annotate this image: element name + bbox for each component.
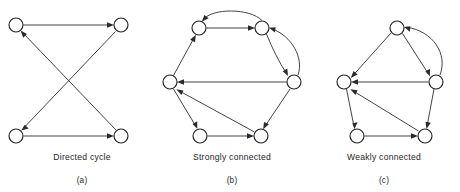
edge-b-topright-topleft-curved <box>202 11 262 22</box>
caption-panel-b: Strongly connected <box>193 152 271 162</box>
node-c-left <box>337 75 351 89</box>
edge-c-right-bottomright <box>426 89 435 129</box>
edge-c-bottomright-left <box>350 89 418 131</box>
edge-b-right-bottomright <box>263 89 290 129</box>
panel-letter-a: (a) <box>77 176 88 185</box>
panel-a-graph <box>9 18 128 143</box>
node-c-bottom-left <box>350 129 364 143</box>
edge-a-topleft-topright <box>24 22 115 27</box>
edge-c-bottomleft-bottomright <box>365 133 419 138</box>
panel-c-graph <box>337 21 443 143</box>
node-b-bottom-left <box>193 129 207 143</box>
edge-c-right-top-curved <box>404 26 442 75</box>
node-c-right <box>429 75 443 89</box>
caption-panel-a: Directed cycle <box>53 152 110 162</box>
node-c-bottom-right <box>418 129 432 143</box>
edge-b-right-left <box>177 79 287 84</box>
node-a-bottom-right <box>114 129 128 143</box>
node-b-top-left <box>192 21 206 35</box>
panel-b-graph <box>163 11 301 143</box>
node-c-top <box>390 21 404 35</box>
edge-b-topright-right-curved <box>267 34 289 76</box>
node-a-bottom-left <box>9 129 23 143</box>
edge-a-bottomleft-bottomright <box>24 133 115 138</box>
node-b-right <box>287 75 301 89</box>
edge-c-left-bottomleft <box>347 89 358 129</box>
edge-b-left-bottomleft <box>174 89 198 129</box>
edge-c-right-left <box>351 79 429 84</box>
edge-c-top-right <box>403 34 431 77</box>
graph-diagram-canvas <box>0 0 460 192</box>
node-a-top-right <box>114 18 128 32</box>
node-b-top-right <box>255 21 269 35</box>
edge-b-topleft-topright <box>207 25 256 30</box>
edge-b-bottomright-left <box>176 89 254 132</box>
figure-directed-graphs: Directed cycle (a) Strongly connected (b… <box>0 0 460 192</box>
edge-b-bottomleft-bottomright <box>208 133 255 138</box>
node-b-left <box>163 75 177 89</box>
node-b-bottom-right <box>254 129 268 143</box>
caption-panel-c: Weakly connected <box>347 152 421 162</box>
panel-letter-c: (c) <box>379 176 389 185</box>
panel-letter-b: (b) <box>227 176 238 185</box>
edge-c-top-left <box>351 33 391 78</box>
edge-b-left-topleft <box>174 35 196 76</box>
node-a-top-left <box>9 18 23 32</box>
